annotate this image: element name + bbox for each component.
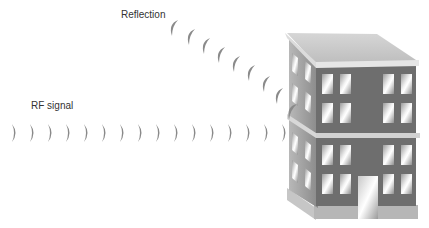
reflection-arcs [171, 20, 297, 120]
rf-signal-label: RF signal [31, 100, 73, 111]
building [285, 33, 420, 220]
rf-reflection-diagram [0, 0, 429, 228]
building-door [358, 176, 378, 219]
rf-signal-arcs [12, 124, 286, 142]
mid-ledge-front [316, 133, 420, 138]
reflection-label: Reflection [121, 9, 165, 20]
